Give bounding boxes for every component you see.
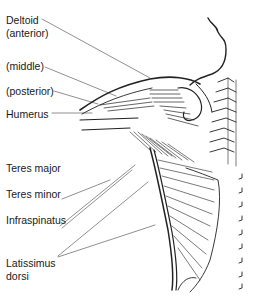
anatomy-diagram: Deltoid (anterior) (middle) (posterior) … <box>0 0 258 296</box>
label-posterior: (posterior) <box>6 85 54 98</box>
label-latissimus-line1: Latissimus <box>6 257 56 270</box>
label-teres-major: Teres major <box>6 162 61 175</box>
label-deltoid-line1: Deltoid <box>6 14 49 27</box>
shoulder-illustration <box>0 0 258 296</box>
label-middle: (middle) <box>6 60 44 73</box>
label-infraspinatus: Infraspinatus <box>6 214 66 227</box>
label-latissimus-line2: dorsi <box>6 270 56 283</box>
label-latissimus-dorsi: Latissimus dorsi <box>6 257 56 283</box>
label-deltoid-line2: (anterior) <box>6 27 49 40</box>
label-humerus: Humerus <box>6 108 49 121</box>
label-teres-minor: Teres minor <box>6 188 61 201</box>
label-deltoid: Deltoid (anterior) <box>6 14 49 40</box>
